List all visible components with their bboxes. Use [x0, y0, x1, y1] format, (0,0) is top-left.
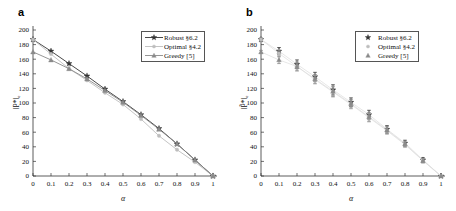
svg-text:0.9: 0.9 — [191, 180, 200, 188]
svg-text:180: 180 — [247, 41, 258, 49]
svg-text:0.5: 0.5 — [119, 180, 128, 188]
svg-text:20: 20 — [22, 158, 30, 166]
svg-text:100: 100 — [19, 99, 30, 107]
svg-text:0.2: 0.2 — [65, 180, 74, 188]
svg-text:0.4: 0.4 — [101, 180, 110, 188]
svg-text:60: 60 — [250, 129, 258, 137]
svg-text:160: 160 — [247, 56, 258, 64]
legend-marker-dot — [144, 42, 164, 51]
legend-item-greedy: Greedy [5] — [358, 51, 415, 60]
svg-text:100: 100 — [247, 99, 258, 107]
svg-text:40: 40 — [250, 143, 258, 151]
svg-text:0.3: 0.3 — [311, 180, 320, 188]
legend-key-triangle-icon — [358, 51, 378, 60]
panel-b-svg: 02040608010012014016018020000.10.20.30.4… — [228, 0, 456, 211]
svg-text:0.7: 0.7 — [155, 180, 164, 188]
svg-text:120: 120 — [247, 85, 258, 93]
svg-text:1: 1 — [211, 180, 215, 188]
legend-label: Optimal §4.2 — [378, 43, 415, 51]
legend-marker-star — [144, 33, 164, 42]
legend-marker-dot — [358, 42, 378, 51]
svg-text:180: 180 — [19, 41, 30, 49]
svg-text:0.9: 0.9 — [419, 180, 428, 188]
legend-label: Optimal §4.2 — [164, 43, 201, 51]
panel-b-legend: Robust §6.2Optimal §4.2Greedy [5] — [355, 31, 419, 62]
legend-item-robust: Robust §6.2 — [358, 33, 415, 42]
svg-text:60: 60 — [22, 129, 30, 137]
legend-item-greedy: Greedy [5] — [144, 51, 201, 60]
legend-key-triangle-icon — [144, 51, 164, 60]
legend-marker-star — [358, 33, 378, 42]
svg-text:1: 1 — [439, 180, 443, 188]
legend-item-robust: Robust §6.2 — [144, 33, 201, 42]
svg-text:200: 200 — [19, 26, 30, 34]
svg-text:0.5: 0.5 — [347, 180, 356, 188]
svg-text:200: 200 — [247, 26, 258, 34]
svg-text:140: 140 — [19, 70, 30, 78]
panel-b-plot-area: 02040608010012014016018020000.10.20.30.4… — [228, 0, 456, 211]
legend-item-optimal: Optimal §4.2 — [144, 42, 201, 51]
legend-label: Robust §6.2 — [164, 34, 198, 42]
legend-item-optimal: Optimal §4.2 — [358, 42, 415, 51]
svg-text:20: 20 — [250, 158, 258, 166]
panel-a-legend: Robust §6.2Optimal §4.2Greedy [5] — [141, 31, 205, 62]
legend-key-star-icon — [144, 33, 164, 42]
legend-key-dot-icon — [358, 42, 378, 51]
svg-text:120: 120 — [19, 85, 30, 93]
svg-text:0: 0 — [26, 172, 30, 180]
svg-text:0.1: 0.1 — [47, 180, 56, 188]
legend-label: Robust §6.2 — [378, 34, 412, 42]
svg-text:0.4: 0.4 — [329, 180, 338, 188]
svg-text:80: 80 — [250, 114, 258, 122]
svg-text:160: 160 — [19, 56, 30, 64]
svg-text:80: 80 — [22, 114, 30, 122]
svg-text:0.2: 0.2 — [293, 180, 302, 188]
svg-text:0.1: 0.1 — [275, 180, 284, 188]
svg-text:140: 140 — [247, 70, 258, 78]
svg-text:0: 0 — [254, 172, 258, 180]
figure-two-panel-chart: a ‖P*‖ₑ 02040608010012014016018020000.10… — [0, 0, 456, 211]
svg-text:0: 0 — [259, 180, 263, 188]
svg-text:0.8: 0.8 — [173, 180, 182, 188]
legend-key-dot-icon — [144, 42, 164, 51]
svg-text:α: α — [121, 194, 126, 203]
svg-text:0.7: 0.7 — [383, 180, 392, 188]
svg-text:0: 0 — [31, 180, 35, 188]
legend-key-star-icon — [358, 33, 378, 42]
legend-label: Greedy [5] — [378, 52, 409, 60]
svg-text:α: α — [349, 194, 354, 203]
panel-a: a ‖P*‖ₑ 02040608010012014016018020000.10… — [0, 0, 228, 211]
legend-label: Greedy [5] — [164, 52, 195, 60]
svg-text:40: 40 — [22, 143, 30, 151]
svg-text:0.3: 0.3 — [83, 180, 92, 188]
svg-text:0.6: 0.6 — [365, 180, 374, 188]
svg-text:0.6: 0.6 — [137, 180, 146, 188]
svg-text:0.8: 0.8 — [401, 180, 410, 188]
legend-marker-triangle — [144, 51, 164, 60]
legend-marker-triangle — [358, 51, 378, 60]
panel-b: b ‖P̃*‖ₑ 02040608010012014016018020000.1… — [228, 0, 456, 211]
